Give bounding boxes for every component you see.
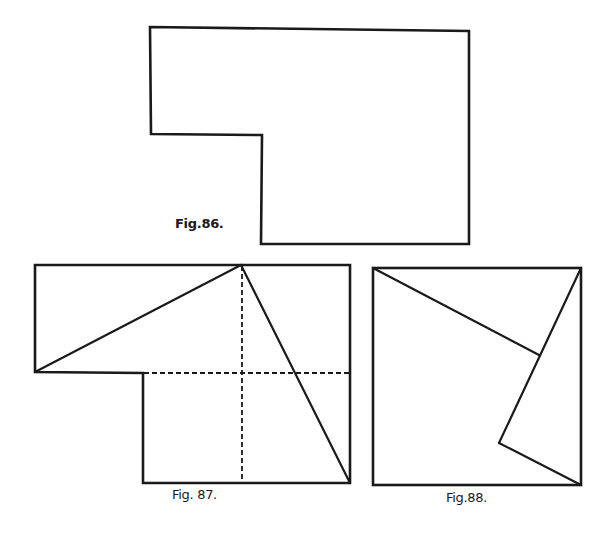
fig87-caption: Fig. 87. [172, 487, 217, 502]
figure-88 [373, 268, 581, 485]
fig87-cut-line-left [35, 265, 241, 372]
fig88-cut-line-bottom [499, 443, 581, 485]
figure-86 [150, 27, 469, 244]
figure-87 [35, 265, 350, 483]
fig87-cut-line-right [241, 265, 350, 483]
fig86-l-shape-outline [150, 27, 469, 244]
fig88-cut-line-top [373, 268, 539, 355]
fig87-l-shape-outline [35, 265, 350, 483]
fig88-caption: Fig.88. [446, 490, 487, 505]
fig88-square-outline [373, 268, 581, 485]
fig86-caption: Fig.86. [175, 216, 224, 231]
fig88-cut-line-diagonal [499, 268, 581, 443]
diagram-canvas [0, 0, 611, 538]
